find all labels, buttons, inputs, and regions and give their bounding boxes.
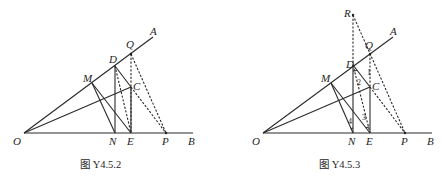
label-A: A — [389, 25, 397, 37]
label-M: M — [82, 72, 93, 84]
angle-label-4: 4 — [348, 117, 352, 126]
label-P: P — [161, 135, 169, 147]
segment-CP — [370, 87, 405, 133]
label-B: B — [188, 135, 195, 147]
point-P-dot — [404, 132, 406, 134]
angle-label-3: 3 — [362, 113, 366, 122]
label-M: M — [320, 72, 331, 84]
figure-right: O A B R Q D M C N E P 1 2 3 4 图 Y4.5.3 — [252, 7, 434, 170]
label-O: O — [13, 135, 21, 147]
label-Q: Q — [365, 39, 373, 51]
point-Q-dot — [369, 53, 371, 55]
segment-DC — [115, 66, 131, 87]
label-Q: Q — [126, 38, 134, 50]
label-R: R — [343, 7, 351, 19]
label-N: N — [347, 135, 356, 147]
figure-left: O A B Q D M C N E P 图 Y4.5.2 — [13, 25, 195, 170]
label-P: P — [400, 135, 408, 147]
label-D: D — [108, 53, 117, 65]
segment-RP — [353, 15, 405, 133]
label-E: E — [365, 135, 373, 147]
label-A: A — [149, 25, 157, 37]
label-E: E — [126, 135, 134, 147]
label-O: O — [252, 135, 260, 147]
caption-right: 图 Y4.5.3 — [319, 159, 360, 170]
point-R-dot — [352, 14, 354, 16]
label-N: N — [108, 135, 117, 147]
label-C: C — [133, 80, 141, 92]
diagram-canvas: O A B Q D M C N E P 图 Y4.5.2 — [0, 0, 442, 181]
label-B: B — [427, 135, 434, 147]
caption-left: 图 Y4.5.2 — [80, 159, 121, 170]
point-Q-dot — [130, 53, 132, 55]
angle-arc-2 — [353, 70, 357, 71]
label-C: C — [372, 80, 380, 92]
angle-label-1: 1 — [367, 68, 371, 77]
angle-label-2: 2 — [357, 78, 361, 87]
label-D: D — [345, 58, 354, 70]
point-P-dot — [165, 132, 167, 134]
